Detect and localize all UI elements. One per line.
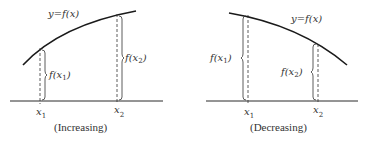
f-x2-brace	[311, 44, 316, 100]
curve-label: y=f(x)	[47, 8, 79, 19]
f-x1-label: f(x1)	[209, 52, 232, 65]
x2-tick-label: x2	[313, 104, 323, 119]
f-x2-brace	[119, 16, 124, 100]
curve-label: y=f(x)	[290, 13, 322, 24]
function-monotonicity-diagram: y=f(x) f(x1) f(x2) x1 x2 (Increasing) y=…	[0, 0, 370, 144]
f-x2-label: f(x2)	[280, 66, 303, 79]
decreasing-curve	[229, 13, 347, 65]
increasing-curve	[23, 11, 136, 65]
f-x1-label: f(x1)	[48, 69, 71, 82]
increasing-panel: y=f(x) f(x1) f(x2) x1 x2 (Increasing)	[10, 8, 163, 134]
f-x1-brace	[42, 50, 47, 100]
x1-tick-label: x1	[36, 106, 46, 120]
decreasing-panel: y=f(x) f(x1) f(x2) x1 x2 (Decreasing)	[206, 13, 358, 134]
x2-tick-label: x2	[114, 104, 124, 119]
f-x1-brace	[241, 16, 246, 100]
x1-tick-label: x1	[244, 106, 254, 120]
f-x2-label: f(x2)	[124, 52, 147, 65]
decreasing-caption: (Decreasing)	[250, 121, 307, 134]
increasing-caption: (Increasing)	[54, 121, 107, 134]
